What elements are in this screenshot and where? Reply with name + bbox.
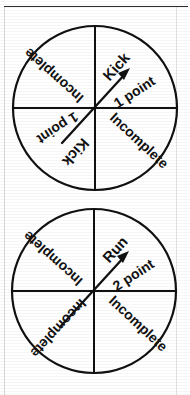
spinner-two[interactable]: Run 2 point Incomplete Incomplete Incomp… bbox=[0, 183, 190, 383]
figure-page: Kick 1 point Incomplete Kick 1 point Inc… bbox=[0, 0, 190, 395]
spinner-one[interactable]: Kick 1 point Incomplete Kick 1 point Inc… bbox=[0, 0, 190, 200]
